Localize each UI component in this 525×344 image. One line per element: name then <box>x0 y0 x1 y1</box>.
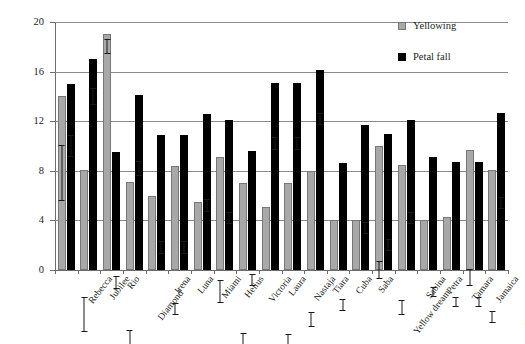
error-bar <box>501 197 502 209</box>
black-square-icon <box>398 53 406 61</box>
error-bar <box>365 222 366 234</box>
bar-group <box>146 22 169 270</box>
bar-yellowing <box>126 182 134 270</box>
error-bar <box>388 239 389 251</box>
bar <box>429 157 437 270</box>
gray-square-icon <box>398 22 406 30</box>
bar-petal-fall <box>112 152 120 270</box>
bar <box>135 95 143 270</box>
bar-group <box>327 22 350 270</box>
bar-group <box>168 22 191 270</box>
bar <box>112 152 120 270</box>
y-tick-label: 8 <box>0 165 44 176</box>
x-tick-label: Jamaica <box>494 274 521 304</box>
bar <box>475 162 483 270</box>
bar-petal-fall <box>452 162 460 270</box>
bar <box>225 120 233 270</box>
error-bar <box>61 145 62 201</box>
bar-chart: 048121620 Days RebeccaJubileeRioDiamondI… <box>0 0 525 344</box>
error-bar <box>184 241 185 253</box>
bar <box>375 146 383 270</box>
bar <box>216 157 224 270</box>
y-axis-tick-labels: 048121620 <box>0 0 48 344</box>
bar-yellowing <box>194 202 202 270</box>
error-bar <box>107 39 108 54</box>
x-tick-label: Miami <box>220 274 243 300</box>
x-tick-mark <box>508 271 509 274</box>
y-tick-mark <box>50 72 55 73</box>
bar <box>271 83 279 270</box>
legend-label-yellowing: Yellowing <box>413 20 456 31</box>
bar-yellowing <box>398 165 406 270</box>
bar <box>407 120 415 270</box>
x-axis-tick-labels: RebeccaJubileeRioDiamondIrenaLunaMiamiHe… <box>55 274 508 344</box>
bar <box>339 163 347 270</box>
bar-group <box>304 22 327 270</box>
y-tick-mark <box>50 171 55 172</box>
bar-petal-fall <box>316 70 324 270</box>
legend-label-petal-fall: Petal fall <box>413 51 451 62</box>
bar-group <box>191 22 214 270</box>
bar-petal-fall <box>225 120 233 270</box>
bar <box>420 220 428 270</box>
x-tick-label: Saba <box>376 274 395 295</box>
bar-petal-fall <box>361 125 369 270</box>
bar-petal-fall <box>89 59 97 270</box>
bar-petal-fall <box>475 162 483 270</box>
bar-group <box>259 22 282 270</box>
y-tick-label: 4 <box>0 214 44 225</box>
bar <box>307 171 315 270</box>
bar-yellowing <box>375 146 383 270</box>
bar-yellowing <box>443 217 451 270</box>
error-bar <box>229 212 230 224</box>
bar-yellowing <box>466 150 474 270</box>
bar-group <box>78 22 101 270</box>
bar-group <box>350 22 373 270</box>
bar <box>80 170 88 270</box>
y-tick-mark <box>50 220 55 221</box>
bar <box>361 125 369 270</box>
bar-group <box>485 22 508 270</box>
bar <box>171 166 179 270</box>
bar <box>398 165 406 270</box>
bar-group <box>463 22 486 270</box>
error-bar <box>93 88 94 105</box>
legend-item-yellowing: Yellowing <box>398 20 456 31</box>
error-bar <box>206 199 207 211</box>
bar-yellowing <box>171 166 179 270</box>
error-bar <box>274 137 275 149</box>
y-tick-mark <box>50 270 55 271</box>
chart-legend: Yellowing Petal fall <box>398 20 456 82</box>
bar-petal-fall <box>384 134 392 270</box>
bar-group <box>55 22 78 270</box>
bar <box>126 182 134 270</box>
bar-yellowing <box>58 96 66 270</box>
bar <box>316 70 324 270</box>
bar <box>452 162 460 270</box>
bar-petal-fall <box>429 157 437 270</box>
bar-yellowing <box>488 170 496 270</box>
bar-petal-fall <box>271 83 279 270</box>
x-tick-label: Cuba <box>354 274 374 296</box>
bar-petal-fall <box>497 113 505 270</box>
error-bar <box>161 241 162 253</box>
error-bar <box>70 135 71 157</box>
bar <box>443 217 451 270</box>
bar-petal-fall <box>407 120 415 270</box>
error-bar <box>138 161 139 176</box>
bar-yellowing <box>239 183 247 270</box>
bar <box>194 202 202 270</box>
y-tick-label: 16 <box>0 66 44 77</box>
bar-group <box>372 22 395 270</box>
x-tick-label: Irena <box>172 274 192 296</box>
bar <box>330 220 338 270</box>
bar-yellowing <box>262 207 270 270</box>
bar-yellowing <box>148 196 156 270</box>
bar <box>67 84 75 270</box>
bar-petal-fall <box>67 84 75 270</box>
bar-petal-fall <box>248 151 256 270</box>
y-tick-mark <box>50 121 55 122</box>
bar-petal-fall <box>157 135 165 270</box>
bar-yellowing <box>80 170 88 270</box>
bar-yellowing <box>352 220 360 270</box>
